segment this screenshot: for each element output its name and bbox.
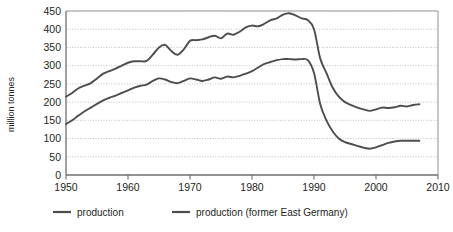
y-tick-label: 250: [43, 78, 61, 90]
y-tick-label: 300: [43, 59, 61, 71]
legend-label-production-east-germany: production (former East Germany): [196, 207, 348, 218]
y-tick-label: 0: [55, 169, 61, 181]
x-tick-label: 1960: [116, 181, 140, 193]
x-tick-label: 1980: [240, 181, 264, 193]
x-tick-label: 2010: [426, 181, 450, 193]
y-tick-label: 100: [43, 132, 61, 144]
y-tick-label: 150: [43, 114, 61, 126]
y-tick-label: 200: [43, 96, 61, 108]
x-tick-label: 1950: [54, 181, 78, 193]
y-axis-tick-labels: 050100150200250300350400450: [43, 5, 61, 181]
series-line-production: [66, 13, 419, 111]
y-tick-label: 50: [49, 151, 61, 163]
gridlines: [67, 11, 437, 157]
x-tick-label: 1970: [178, 181, 202, 193]
legend-label-production: production: [77, 207, 124, 218]
x-tick-label: 1990: [302, 181, 326, 193]
y-axis-title: million tonnes: [6, 76, 16, 132]
y-tick-label: 400: [43, 23, 61, 35]
production-line-chart: million tonnes 0501001502002503003504004…: [0, 0, 453, 232]
y-tick-label: 450: [43, 5, 61, 17]
series-lines: [66, 13, 419, 149]
chart-legend: production production (former East Germa…: [53, 207, 348, 218]
y-tick-label: 350: [43, 41, 61, 53]
x-tick-label: 2000: [364, 181, 388, 193]
series-line-production-east-germany: [66, 59, 419, 149]
x-axis-ticks: 1950196019701980199020002010: [54, 175, 450, 193]
chart-figure: million tonnes 0501001502002503003504004…: [0, 0, 453, 232]
